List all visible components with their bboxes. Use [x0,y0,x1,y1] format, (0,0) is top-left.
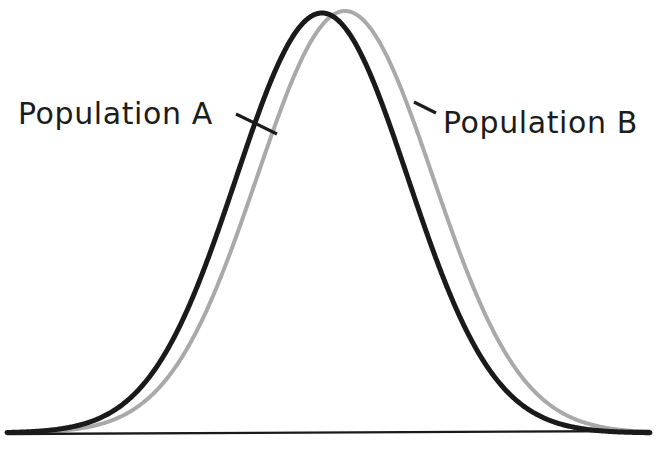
chart-canvas: Population A Population B [0,0,665,451]
population-b-curve [7,11,650,433]
population-a-curve [7,13,650,433]
population-a-label: Population A [18,96,213,131]
baseline-axis [7,431,650,434]
population-b-label: Population B [443,105,638,140]
distribution-chart-figure: Population A Population B [0,0,665,451]
population-b-leader-line [414,102,436,113]
